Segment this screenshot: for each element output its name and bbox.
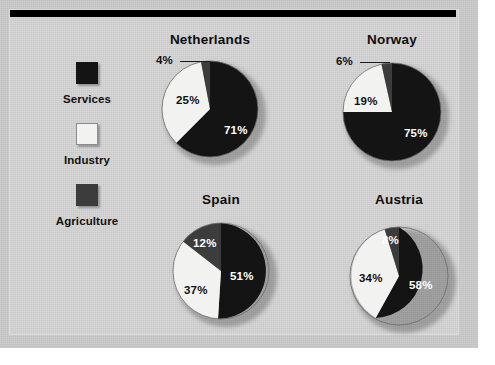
pie-chart-norway: Norway 75% 19% 6% (330, 32, 454, 164)
legend-item-agriculture: Agriculture (28, 184, 146, 227)
legend-item-services: Services (28, 62, 146, 105)
pie-value-netherlands-industry: 25% (176, 94, 200, 106)
pie-value-spain-services: 51% (230, 270, 254, 282)
pie-graphic-netherlands (159, 58, 261, 160)
figure-panel: Services Industry Agriculture Netherland… (9, 9, 459, 335)
pie-value-norway-agriculture: 6% (336, 55, 353, 67)
pie-chart-netherlands: Netherlands 71% 25% 4% (150, 32, 270, 162)
pie-slices-spain (170, 220, 272, 322)
pie-value-austria-services: 58% (409, 279, 433, 291)
pie-chart-austria: Austria 58% 34% 8% (337, 192, 461, 328)
leader-line-norway-agriculture (360, 62, 390, 63)
legend-label-agriculture: Agriculture (28, 215, 146, 227)
pie-value-netherlands-agriculture: 4% (156, 54, 173, 66)
pie-graphic-spain (170, 220, 272, 322)
pie-title-netherlands: Netherlands (150, 32, 270, 47)
pie-value-spain-industry: 37% (184, 284, 208, 296)
legend-swatch-services-icon (76, 62, 98, 84)
pie-slices-netherlands (159, 58, 261, 160)
leader-line-netherlands-agriculture (180, 61, 210, 62)
pie-value-spain-agriculture: 12% (193, 237, 217, 249)
pie-value-norway-services: 75% (404, 127, 428, 139)
pie-graphic-norway (340, 60, 444, 164)
legend-swatch-industry-icon (76, 123, 98, 145)
pie-title-norway: Norway (330, 32, 454, 47)
legend: Services Industry Agriculture (28, 62, 146, 245)
pie-value-austria-agriculture: 8% (382, 234, 399, 246)
pie-value-austria-industry: 34% (359, 272, 383, 284)
legend-label-services: Services (28, 93, 146, 105)
legend-item-industry: Industry (28, 123, 146, 166)
legend-swatch-agriculture-icon (76, 184, 98, 206)
pie-title-spain: Spain (160, 192, 282, 207)
legend-label-industry: Industry (28, 154, 146, 166)
pie-chart-spain: Spain 51% 37% 12% (160, 192, 282, 326)
pie-value-norway-industry: 19% (354, 95, 378, 107)
pie-slices-norway (340, 60, 444, 164)
figure-page: Services Industry Agriculture Netherland… (0, 0, 495, 365)
pie-title-austria: Austria (337, 192, 461, 207)
pie-value-netherlands-services: 71% (224, 124, 248, 136)
top-rule-divider (10, 10, 456, 17)
